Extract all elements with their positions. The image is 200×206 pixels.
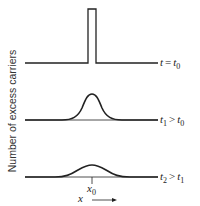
- carrier-diffusion-diagram: Number of excess carriers t=t0 t1>t0 t2>…: [0, 0, 200, 206]
- label-t-equals-t0: t=t0: [160, 56, 180, 71]
- label-rhs-sub: 0: [176, 62, 180, 71]
- label-op: >: [169, 170, 175, 182]
- x-axis-arrow: [92, 198, 117, 202]
- label-rhs-sub: 1: [180, 176, 184, 185]
- y-axis-label: Number of excess carriers: [6, 46, 20, 176]
- label-op: >: [169, 113, 175, 125]
- panel-t1-gaussian: [25, 94, 158, 120]
- label-t1-gt-t0: t1>t0: [160, 113, 184, 128]
- x0-label: x0: [87, 182, 96, 197]
- label-var-sub: 1: [163, 119, 167, 128]
- x0-sub: 0: [92, 188, 96, 197]
- label-var-sub: 2: [163, 176, 167, 185]
- x-axis-label: x: [78, 192, 83, 204]
- panel-t0-pulse: [25, 9, 158, 63]
- label-op: =: [165, 56, 171, 68]
- label-var: t: [160, 56, 163, 68]
- label-rhs-sub: 0: [180, 119, 184, 128]
- label-t2-gt-t1: t2>t1: [160, 170, 184, 185]
